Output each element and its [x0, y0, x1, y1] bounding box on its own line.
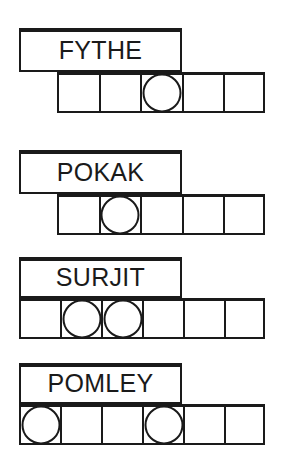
letter-cell[interactable] — [224, 298, 265, 339]
letter-cell[interactable] — [140, 194, 182, 235]
letter-cell[interactable] — [19, 404, 60, 445]
letter-cell[interactable] — [182, 194, 224, 235]
letter-cell[interactable] — [19, 298, 60, 339]
letter-cell[interactable] — [183, 404, 224, 445]
circle-marker-icon — [142, 74, 181, 113]
letter-cell-row — [19, 404, 265, 445]
worksheet-canvas: FYTHEPOKAKSURJITPOMLEY — [0, 0, 283, 466]
letter-cell[interactable] — [60, 298, 101, 339]
letter-cell[interactable] — [142, 404, 183, 445]
letter-cell-row — [57, 72, 265, 113]
name-label-text: SURJIT — [56, 265, 145, 290]
circle-marker-icon — [101, 196, 140, 235]
name-label-box[interactable]: SURJIT — [19, 257, 182, 298]
letter-cell[interactable] — [101, 298, 142, 339]
letter-cell[interactable] — [60, 404, 101, 445]
name-label-box[interactable]: POKAK — [19, 150, 182, 194]
letter-cell-row — [19, 298, 265, 339]
letter-cell[interactable] — [142, 298, 183, 339]
letter-cell[interactable] — [182, 72, 224, 113]
circle-marker-icon — [21, 406, 60, 445]
letter-cell[interactable] — [99, 72, 141, 113]
letter-cell[interactable] — [183, 298, 224, 339]
circle-marker-icon — [62, 300, 101, 339]
name-label-text: FYTHE — [59, 38, 142, 63]
letter-cell[interactable] — [57, 194, 99, 235]
name-label-text: POKAK — [57, 160, 145, 185]
letter-cell[interactable] — [223, 72, 265, 113]
circle-marker-icon — [144, 406, 183, 445]
letter-cell[interactable] — [140, 72, 182, 113]
letter-cell[interactable] — [101, 404, 142, 445]
name-label-box[interactable]: POMLEY — [19, 363, 182, 404]
letter-cell[interactable] — [224, 404, 265, 445]
circle-marker-icon — [103, 300, 142, 339]
name-label-text: POMLEY — [48, 371, 154, 396]
letter-cell-row — [57, 194, 265, 235]
letter-cell[interactable] — [57, 72, 99, 113]
letter-cell[interactable] — [99, 194, 141, 235]
name-label-box[interactable]: FYTHE — [19, 28, 182, 72]
letter-cell[interactable] — [223, 194, 265, 235]
